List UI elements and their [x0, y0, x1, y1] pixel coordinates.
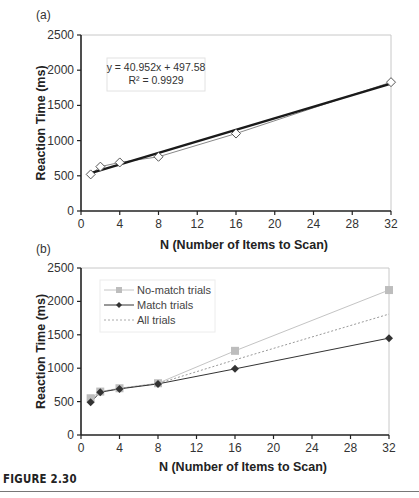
square-marker-icon	[231, 347, 239, 355]
x-tick-label: 0	[78, 217, 85, 231]
y-tick-label: 1000	[47, 361, 74, 375]
y-tick-label: 1000	[47, 134, 74, 148]
y-tick-label: 1500	[47, 328, 74, 342]
chart-panel-a: 05001000150020002500048121620242832N (Nu…	[34, 8, 398, 252]
figure-canvas: 05001000150020002500048121620242832N (Nu…	[0, 0, 419, 498]
x-tick-label: 20	[268, 217, 282, 231]
x-tick-label: 12	[191, 217, 205, 231]
square-marker-icon	[385, 286, 393, 294]
legend-label: No-match trials	[137, 284, 211, 296]
figure-caption: FIGURE 2.30	[3, 472, 77, 486]
x-tick-label: 32	[384, 217, 398, 231]
legend-square-icon	[116, 287, 122, 293]
x-axis-title: N (Number of Items to Scan)	[160, 238, 328, 252]
x-tick-label: 8	[155, 441, 162, 455]
x-tick-label: 4	[116, 217, 123, 231]
r-squared: R² = 0.9929	[128, 74, 183, 86]
chart-panel-b: 05001000150020002500048121620242832N (Nu…	[34, 242, 396, 474]
legend-label: All trials	[137, 314, 176, 326]
x-tick-label: 24	[307, 217, 321, 231]
regression-equation: y = 40.952x + 497.58	[107, 61, 206, 73]
x-tick-label: 4	[116, 441, 123, 455]
y-axis-title: Reaction Time (ms)	[34, 65, 48, 180]
y-tick-label: 2000	[47, 294, 74, 308]
legend: No-match trialsMatch trialsAll trials	[100, 280, 215, 332]
x-tick-label: 32	[382, 441, 396, 455]
x-tick-label: 20	[267, 441, 281, 455]
x-tick-label: 0	[78, 441, 85, 455]
y-tick-label: 500	[54, 169, 74, 183]
x-tick-label: 28	[344, 441, 358, 455]
x-tick-label: 28	[346, 217, 360, 231]
legend-label: Match trials	[137, 299, 194, 311]
caption-rule	[0, 491, 419, 492]
y-tick-label: 500	[54, 395, 74, 409]
y-tick-label: 1500	[47, 98, 74, 112]
y-axis-title: Reaction Time (ms)	[34, 294, 48, 409]
diamond-marker-icon	[385, 334, 393, 342]
y-tick-label: 2500	[47, 28, 74, 42]
x-tick-label: 16	[229, 217, 243, 231]
x-tick-label: 24	[305, 441, 319, 455]
trendline	[91, 84, 391, 173]
x-tick-label: 12	[190, 441, 204, 455]
y-tick-label: 2500	[47, 261, 74, 275]
x-tick-label: 16	[228, 441, 242, 455]
y-tick-label: 0	[67, 428, 74, 442]
y-tick-label: 2000	[47, 63, 74, 77]
diamond-marker-icon	[231, 365, 239, 373]
x-tick-label: 8	[155, 217, 162, 231]
x-axis-title: N (Number of Items to Scan)	[159, 460, 327, 474]
panel-label: (a)	[36, 8, 51, 22]
panel-label: (b)	[36, 242, 51, 256]
y-tick-label: 0	[67, 204, 74, 218]
match-line	[91, 338, 389, 402]
